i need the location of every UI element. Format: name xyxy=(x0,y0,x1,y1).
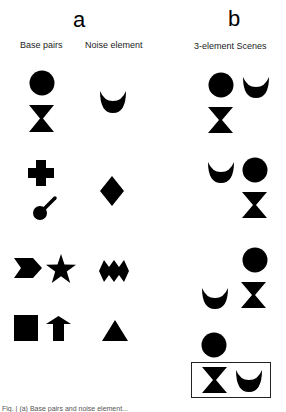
scene3-hourglass-icon xyxy=(241,282,266,308)
scene1-hourglass-icon xyxy=(208,107,233,133)
crescent-icon xyxy=(100,91,126,113)
scenes-label: 3-element Scenes xyxy=(194,41,267,51)
star-icon xyxy=(46,254,76,283)
zigzag-diamonds-icon xyxy=(99,260,129,282)
noise-element-label: Noise element xyxy=(85,40,143,50)
arrow-up-icon xyxy=(46,316,71,341)
panel-a-letter: a xyxy=(73,9,85,31)
cross-icon xyxy=(28,160,54,186)
lollipop-icon xyxy=(33,195,57,221)
base-pairs-label: Base pairs xyxy=(20,40,63,50)
caption-fragment: Fig. | (a) Base pairs and noise element.… xyxy=(2,405,128,412)
scene4-crescent-icon xyxy=(236,370,262,392)
scene1-crescent-icon xyxy=(243,77,269,98)
scene2-hourglass-icon xyxy=(242,192,267,218)
triangle-icon xyxy=(102,320,128,341)
scene4-circle-icon xyxy=(201,332,227,358)
scene2-crescent-icon xyxy=(208,162,234,183)
scene3-circle-icon xyxy=(242,247,268,273)
chevron-icon xyxy=(14,258,42,278)
scene1-circle-icon xyxy=(208,72,234,98)
scene3-crescent-icon xyxy=(202,288,228,309)
circle-icon xyxy=(29,70,55,96)
hourglass-icon xyxy=(29,105,54,132)
scene2-circle-icon xyxy=(242,157,268,183)
diamond-icon xyxy=(100,176,124,206)
square-icon xyxy=(14,315,38,341)
panel-b-letter: b xyxy=(228,8,240,30)
scene4-hourglass-icon xyxy=(202,367,227,393)
